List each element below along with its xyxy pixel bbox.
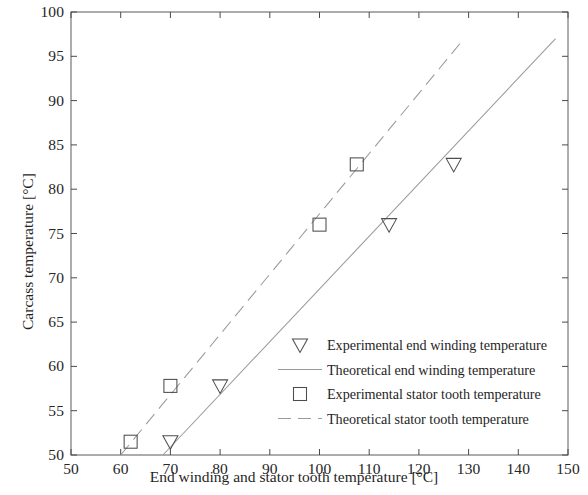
- series-markers: [124, 158, 461, 449]
- legend-entry-label: Experimental stator tooth temperature: [327, 386, 541, 403]
- chart-figure: 50556065707580859095100 5060708090100110…: [0, 0, 588, 495]
- y-tick-label: 60: [26, 357, 64, 375]
- y-axis-title: Carcass temperature [°C]: [19, 173, 37, 330]
- triangle-down-marker: [446, 158, 461, 172]
- x-axis-title: End winding and stator tooth temperature…: [0, 468, 588, 486]
- square-marker: [164, 379, 177, 392]
- legend-entry-label: Experimental end winding temperature: [327, 337, 547, 354]
- y-tick-label: 100: [26, 3, 64, 21]
- y-tick-label: 90: [26, 92, 64, 110]
- y-tick-label: 95: [26, 47, 64, 65]
- legend-entry-label: Theoretical stator tooth temperature: [327, 410, 529, 427]
- y-tick-label: 85: [26, 136, 64, 154]
- y-tick-label: 55: [26, 402, 64, 420]
- legend-symbols: [278, 339, 322, 419]
- y-tick-label: 50: [26, 446, 64, 464]
- triangle-down-icon: [293, 339, 308, 353]
- triangle-down-marker: [213, 380, 228, 394]
- square-icon: [294, 388, 307, 401]
- legend-entry-label: Theoretical end winding temperature: [327, 361, 535, 378]
